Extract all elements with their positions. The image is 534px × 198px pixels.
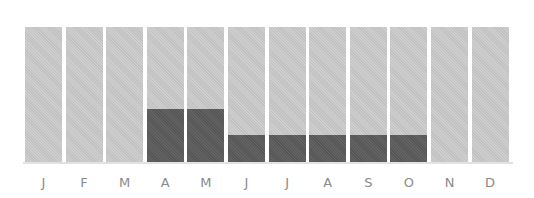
month-label: N [431,175,468,190]
month-label: J [25,175,62,190]
month-label: O [390,175,427,190]
month-label: J [228,175,265,190]
bar-track [106,27,143,162]
month-label: A [309,175,346,190]
bar-fill [309,135,346,162]
bar-fill [350,135,387,162]
month-label: F [66,175,103,190]
bar-fill [269,135,306,162]
month-label: M [106,175,143,190]
month-label: D [472,175,509,190]
monthly-bar-chart [25,27,511,163]
bar-track [25,27,62,162]
bar-fill [228,135,265,162]
bar-fill [187,109,224,162]
chart-baseline [23,162,513,164]
bar-track [390,27,427,162]
bar-track [309,27,346,162]
month-label: A [147,175,184,190]
bar-track [269,27,306,162]
bar-fill [147,109,184,162]
bar-track [431,27,468,162]
bar-fill [390,135,427,162]
bar-track [228,27,265,162]
month-label: J [269,175,306,190]
bar-track [147,27,184,162]
bar-track [350,27,387,162]
bar-track [472,27,509,162]
bar-track [187,27,224,162]
bar-track [66,27,103,162]
month-label: M [187,175,224,190]
month-label: S [350,175,387,190]
